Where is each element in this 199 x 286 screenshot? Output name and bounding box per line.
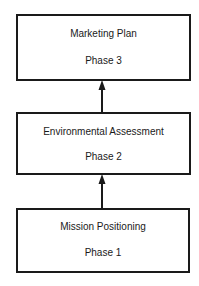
box-marketing-plan: Marketing Plan Phase 3 bbox=[16, 14, 191, 81]
box-title: Environmental Assessment bbox=[18, 126, 189, 137]
box-phase: Phase 1 bbox=[18, 247, 188, 258]
arrow-up-icon bbox=[96, 80, 108, 113]
box-phase: Phase 2 bbox=[18, 151, 189, 162]
box-title: Marketing Plan bbox=[18, 28, 189, 39]
box-title: Mission Positioning bbox=[18, 221, 188, 232]
box-environmental-assessment: Environmental Assessment Phase 2 bbox=[16, 112, 191, 175]
box-mission-positioning: Mission Positioning Phase 1 bbox=[16, 208, 190, 273]
arrow-up-icon bbox=[96, 174, 108, 209]
box-phase: Phase 3 bbox=[18, 55, 189, 66]
